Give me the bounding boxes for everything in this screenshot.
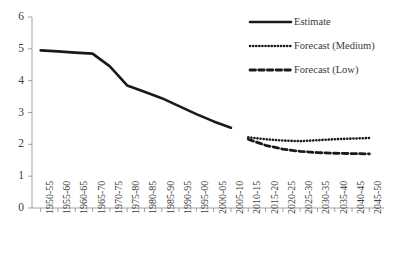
y-tick-label: 3 [8,107,24,119]
series-line-forecast-low [248,139,369,154]
x-tick-label: 2020-25 [287,181,297,214]
x-tick-label: 2035-40 [339,181,349,214]
x-tick-label: 1980-85 [148,181,158,214]
x-tick-label: 2000-05 [218,181,228,214]
legend-label: Forecast (Medium) [294,41,375,52]
fertility-rate-line-chart: 0123456 1950-551955-601960-651965-701970… [0,0,395,269]
series-line-forecast-medium [248,137,369,141]
x-tick-label: 1975-80 [131,181,141,214]
chart-legend-swatches [250,22,291,70]
x-tick-label: 1965-70 [97,181,107,214]
y-tick-label: 6 [8,11,24,23]
x-tick-label: 1990-95 [183,181,193,214]
x-tick-label: 2010-15 [252,181,262,214]
series-line-estimate [41,50,231,127]
legend-label: Forecast (Low) [294,65,358,76]
y-tick-label: 5 [8,43,24,55]
x-tick-label: 1950-55 [45,181,55,214]
x-tick-label: 2045-50 [373,181,383,214]
x-tick-label: 1960-65 [79,181,89,214]
x-tick-label: 2030-35 [321,181,331,214]
y-tick-label: 1 [8,170,24,182]
y-tick-label: 2 [8,138,24,150]
x-tick-label: 2040-45 [356,181,366,214]
x-tick-label: 1985-90 [166,181,176,214]
y-tick-label: 0 [8,202,24,214]
x-tick-label: 1995-00 [200,181,210,214]
legend-label: Estimate [294,17,331,28]
x-tick-label: 2005-10 [235,181,245,214]
x-tick-label: 1955-60 [62,181,72,214]
x-tick-label: 1970-75 [114,181,124,214]
x-tick-label: 2015-20 [270,181,280,214]
x-tick-label: 2025-30 [304,181,314,214]
y-tick-label: 4 [8,75,24,87]
